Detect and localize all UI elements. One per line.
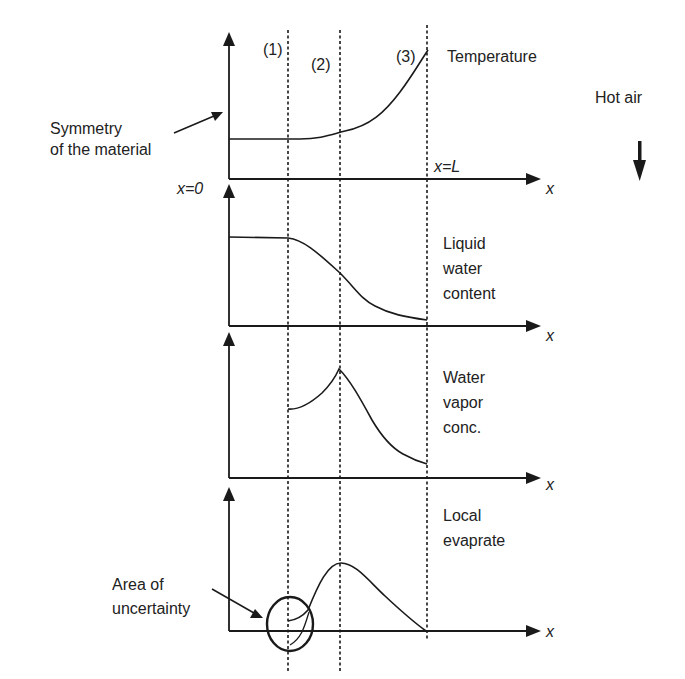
x-axis-label: x [545,476,555,493]
y-axis-arrow-icon [223,332,235,346]
panel-evaporation: x Local evaprate [223,487,555,651]
panel-label-temperature: Temperature [447,48,537,65]
x-axis-label: x [545,180,555,197]
boundary-label-2: (2) [311,56,331,73]
uncertainty-label-line1: Area of [112,576,164,593]
liquid-water-curve [229,237,427,320]
uncertainty-label-line2: uncertainty [112,600,190,617]
boundary-label-3: (3) [396,48,416,65]
panel-label-liquid-3: content [443,285,496,302]
symmetry-label-line1: Symmetry [50,120,122,137]
hot-air-arrow-shaft [638,141,642,163]
water-vapor-curve [288,369,427,464]
x-end-label: x=L [433,158,460,175]
x-start-label: x=0 [176,180,203,197]
panel-liquid-water: x Liquid water content [223,184,555,344]
x-axis-arrow-icon [526,472,541,484]
boundary-label-1: (1) [263,41,283,58]
y-axis-arrow-icon [223,32,235,46]
x-axis-arrow-icon [526,625,541,637]
uncertainty-circle [267,597,313,651]
hot-air-label: Hot air [595,89,643,106]
panel-label-vapor-2: vapor [443,394,484,411]
panel-label-vapor-3: conc. [443,419,481,436]
y-axis-arrow-icon [223,184,235,198]
panel-label-liquid-2: water [442,260,483,277]
hot-air-arrow-icon [633,160,646,181]
panel-label-liquid-1: Liquid [443,235,486,252]
uncertainty-arrow-icon [250,609,263,618]
x-axis-arrow-icon [526,173,541,185]
x-axis-arrow-icon [526,320,541,332]
x-axis-label: x [545,327,555,344]
panel-water-vapor: x Water vapor conc. [223,332,555,493]
panel-label-vapor-1: Water [443,369,486,386]
x-axis-label: x [545,623,555,640]
uncertainty-pointer [212,589,254,613]
y-axis-arrow-icon [223,487,235,501]
drying-diagram: (1) (2) (3) x Temperature x=L x=0 Symmet… [0,0,685,679]
symmetry-label-line2: of the material [50,141,151,158]
panel-label-evap-2: evaprate [443,532,505,549]
symmetry-pointer [174,116,214,133]
evaporation-curve [288,563,426,631]
panel-label-evap-1: Local [443,507,481,524]
